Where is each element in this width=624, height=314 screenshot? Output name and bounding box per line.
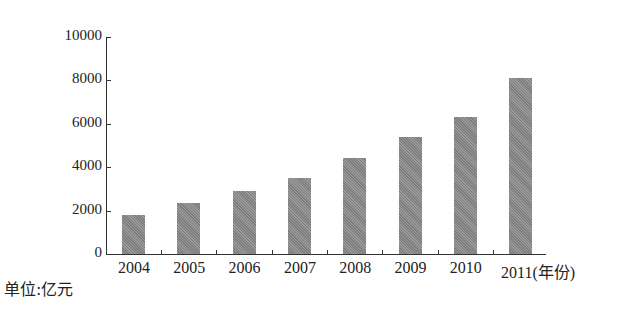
y-tick-mark	[106, 211, 111, 212]
x-tick-mark	[216, 250, 217, 254]
y-tick-mark	[106, 254, 111, 255]
bar-2006	[233, 191, 256, 254]
x-tick-mark	[272, 250, 273, 254]
y-tick-mark	[106, 167, 111, 168]
x-tick-mark	[161, 250, 162, 254]
x-tick-mark	[382, 250, 383, 254]
x-tick-label: 2004	[109, 259, 159, 277]
y-tick-label: 0	[42, 244, 102, 261]
y-tick-label: 4000	[42, 157, 102, 174]
x-tick-label: 2006	[220, 259, 270, 277]
bar-2011	[509, 78, 532, 254]
bar-2007	[288, 178, 311, 254]
y-tick-label: 8000	[42, 70, 102, 87]
x-tick-mark	[438, 250, 439, 254]
y-tick-label: 2000	[42, 201, 102, 218]
x-tick-mark	[327, 250, 328, 254]
x-tick-label: 2005	[164, 259, 214, 277]
bar-2005	[177, 203, 200, 254]
x-tick-label: 2008	[330, 259, 380, 277]
y-axis	[106, 38, 107, 255]
unit-label: 单位:亿元	[4, 276, 73, 300]
y-tick-label: 6000	[42, 114, 102, 131]
x-tick-label: 2010	[441, 259, 491, 277]
bar-2004	[122, 215, 145, 254]
x-tick-label: 2007	[275, 259, 325, 277]
y-tick-label: 10000	[42, 27, 102, 44]
bar-2009	[399, 137, 422, 254]
x-tick-label: 2009	[386, 259, 436, 277]
x-tick-mark	[493, 250, 494, 254]
y-tick-mark	[106, 37, 111, 38]
y-tick-mark	[106, 124, 111, 125]
y-tick-mark	[106, 80, 111, 81]
bar-2008	[343, 158, 366, 254]
bar-2010	[454, 117, 477, 254]
x-tick-label: 2011(年份)	[501, 259, 611, 283]
x-axis	[106, 254, 546, 255]
